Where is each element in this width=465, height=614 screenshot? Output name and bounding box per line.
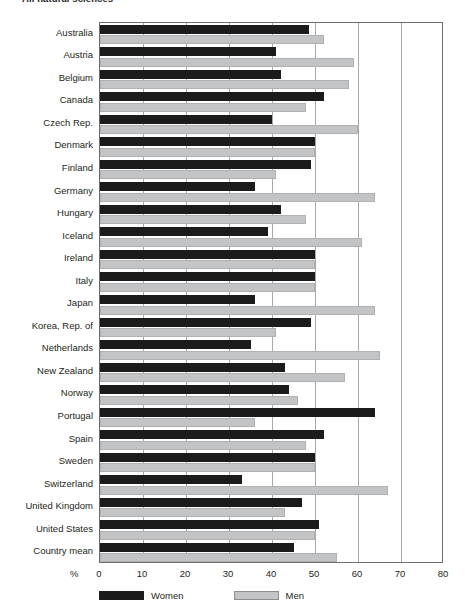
bar-row bbox=[100, 363, 442, 386]
y-axis-label: Spain bbox=[0, 433, 93, 444]
bar-women bbox=[100, 385, 289, 394]
bar-women bbox=[100, 25, 309, 34]
x-tick-label-30: 30 bbox=[223, 568, 234, 579]
bar-women bbox=[100, 250, 315, 259]
bar-row bbox=[100, 475, 442, 498]
bar-women bbox=[100, 272, 315, 281]
bar-row bbox=[100, 92, 442, 115]
bar-men bbox=[100, 373, 345, 382]
chart-legend: Women Men bbox=[99, 588, 304, 602]
bar-row bbox=[100, 250, 442, 273]
legend-label-men: Men bbox=[286, 590, 304, 601]
bar-men bbox=[100, 351, 380, 360]
bar-women bbox=[100, 205, 281, 214]
bar-women bbox=[100, 318, 311, 327]
x-tick-label-40: 40 bbox=[266, 568, 277, 579]
y-axis-label: Norway bbox=[0, 387, 93, 398]
bar-women bbox=[100, 363, 285, 372]
y-axis-label: Canada bbox=[0, 94, 93, 105]
bar-men bbox=[100, 396, 298, 405]
bar-women bbox=[100, 295, 255, 304]
bar-men bbox=[100, 463, 315, 472]
x-tick-label-50: 50 bbox=[309, 568, 320, 579]
bar-row bbox=[100, 453, 442, 476]
x-tick-label-10: 10 bbox=[137, 568, 148, 579]
y-axis-label: Australia bbox=[0, 27, 93, 38]
bar-men bbox=[100, 441, 306, 450]
bar-men bbox=[100, 193, 375, 202]
bar-row bbox=[100, 70, 442, 93]
bar-men bbox=[100, 103, 306, 112]
bar-women bbox=[100, 160, 311, 169]
bar-women bbox=[100, 430, 324, 439]
bar-men bbox=[100, 125, 358, 134]
y-axis-label: Sweden bbox=[0, 455, 93, 466]
bar-women bbox=[100, 182, 255, 191]
x-tick-label-0: 0 bbox=[96, 568, 101, 579]
y-axis-label: Czech Rep. bbox=[0, 117, 93, 128]
bar-men bbox=[100, 58, 354, 67]
chart-title: All natural sciences bbox=[22, 0, 113, 4]
bar-row bbox=[100, 227, 442, 250]
y-axis-label: Japan bbox=[0, 297, 93, 308]
bar-women bbox=[100, 520, 319, 529]
bar-row bbox=[100, 115, 442, 138]
bar-row bbox=[100, 520, 442, 543]
y-axis-label: Hungary bbox=[0, 207, 93, 218]
x-tick-label-70: 70 bbox=[395, 568, 406, 579]
legend-item-men: Men bbox=[234, 590, 304, 601]
y-axis-label: Switzerland bbox=[0, 478, 93, 489]
bar-rows bbox=[100, 23, 442, 562]
bar-men bbox=[100, 238, 362, 247]
bar-men bbox=[100, 328, 276, 337]
bar-women bbox=[100, 340, 251, 349]
bar-women bbox=[100, 70, 281, 79]
y-axis-label: Germany bbox=[0, 185, 93, 196]
y-axis-label: United States bbox=[0, 523, 93, 534]
x-tick-label-60: 60 bbox=[352, 568, 363, 579]
bar-men bbox=[100, 306, 375, 315]
bar-men bbox=[100, 283, 315, 292]
y-axis-label: Ireland bbox=[0, 252, 93, 263]
bar-row bbox=[100, 272, 442, 295]
bar-row bbox=[100, 408, 442, 431]
bar-men bbox=[100, 553, 337, 562]
bar-women bbox=[100, 498, 302, 507]
bar-row bbox=[100, 340, 442, 363]
bar-row bbox=[100, 295, 442, 318]
bar-men bbox=[100, 486, 388, 495]
y-axis-label: Country mean bbox=[0, 545, 93, 556]
bar-women bbox=[100, 475, 242, 484]
bar-row bbox=[100, 182, 442, 205]
y-axis-label: Denmark bbox=[0, 139, 93, 150]
y-axis-label: Netherlands bbox=[0, 342, 93, 353]
bar-row bbox=[100, 137, 442, 160]
bar-women bbox=[100, 543, 294, 552]
bar-row bbox=[100, 47, 442, 70]
legend-label-women: Women bbox=[151, 590, 184, 601]
bar-row bbox=[100, 318, 442, 341]
bar-row bbox=[100, 385, 442, 408]
y-axis-label: Portugal bbox=[0, 410, 93, 421]
y-axis-label: Korea, Rep. of bbox=[0, 320, 93, 331]
bar-men bbox=[100, 508, 285, 517]
y-axis-label: Iceland bbox=[0, 230, 93, 241]
y-axis-label: United Kingdom bbox=[0, 500, 93, 511]
bar-men bbox=[100, 170, 276, 179]
y-axis-label: Finland bbox=[0, 162, 93, 173]
bar-men bbox=[100, 260, 315, 269]
bar-women bbox=[100, 227, 268, 236]
bar-row bbox=[100, 205, 442, 228]
bar-row bbox=[100, 498, 442, 521]
legend-swatch-women-icon bbox=[99, 591, 144, 600]
x-tick-label-80: 80 bbox=[438, 568, 449, 579]
bar-men bbox=[100, 35, 324, 44]
y-axis-label: Austria bbox=[0, 49, 93, 60]
bar-women bbox=[100, 137, 315, 146]
legend-swatch-men-icon bbox=[234, 591, 279, 600]
y-axis-label: New Zealand bbox=[0, 365, 93, 376]
bar-row bbox=[100, 543, 442, 566]
bar-women bbox=[100, 408, 375, 417]
bar-row bbox=[100, 160, 442, 183]
bar-row bbox=[100, 430, 442, 453]
